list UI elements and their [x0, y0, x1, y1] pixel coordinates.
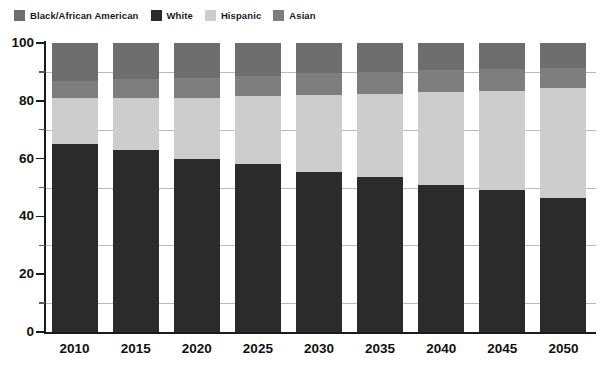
- chart-legend: Black/African American White Hispanic As…: [14, 6, 328, 24]
- y-axis-label-100: 100: [0, 36, 34, 50]
- bar-segment-white-2025: [235, 164, 281, 332]
- bar-segment-white-2030: [296, 172, 342, 332]
- y-axis-label-80: 80: [0, 94, 34, 108]
- bar-segment-asian-2040: [418, 70, 464, 92]
- stacked-bar-chart: Black/African American White Hispanic As…: [0, 0, 610, 379]
- x-axis-label-2025: 2025: [227, 342, 288, 356]
- x-axis-label-2015: 2015: [105, 342, 166, 356]
- bar-segment-hispanic-2035: [357, 94, 403, 178]
- bar-segment-white-2045: [479, 190, 525, 332]
- bar-group-2025: [235, 43, 281, 332]
- legend-label-white: White: [167, 10, 193, 21]
- bar-segment-asian-2045: [479, 69, 525, 91]
- bar-segment-hispanic-2015: [113, 98, 159, 150]
- bar-segment-hispanic-2030: [296, 95, 342, 172]
- bar-segment-black-african-american-2030: [296, 43, 342, 73]
- bar-segment-hispanic-2025: [235, 96, 281, 164]
- y-axis-label-0: 0: [0, 325, 34, 339]
- x-axis-label-2030: 2030: [288, 342, 349, 356]
- bar-group-2035: [357, 43, 403, 332]
- bar-segment-black-african-american-2010: [52, 43, 98, 81]
- bar-group-2020: [174, 43, 220, 332]
- x-axis-line: [44, 332, 596, 334]
- bar-segment-black-african-american-2045: [479, 43, 525, 69]
- legend-swatch-asian: [273, 10, 284, 21]
- bar-group-2050: [540, 43, 586, 332]
- bar-segment-hispanic-2045: [479, 91, 525, 191]
- bar-segment-asian-2015: [113, 79, 159, 98]
- bar-segment-black-african-american-2025: [235, 43, 281, 76]
- y-axis-label-20: 20: [0, 267, 34, 281]
- bar-segment-hispanic-2020: [174, 98, 220, 159]
- bar-segment-asian-2035: [357, 72, 403, 94]
- legend-item-asian: Asian: [273, 10, 315, 21]
- bar-segment-hispanic-2040: [418, 92, 464, 184]
- x-axis-label-2020: 2020: [166, 342, 227, 356]
- y-axis-labels: 020406080100: [0, 0, 34, 379]
- bar-segment-white-2035: [357, 177, 403, 332]
- x-axis-label-2045: 2045: [472, 342, 533, 356]
- legend-label-asian: Asian: [289, 10, 315, 21]
- bar-group-2010: [52, 43, 98, 332]
- bar-segment-asian-2050: [540, 68, 586, 88]
- bar-segment-white-2020: [174, 159, 220, 332]
- bar-group-2030: [296, 43, 342, 332]
- bar-segment-black-african-american-2035: [357, 43, 403, 72]
- x-axis-label-2010: 2010: [44, 342, 105, 356]
- legend-item-white: White: [151, 10, 193, 21]
- chart-plot-area: [44, 43, 594, 332]
- x-axis-label-2050: 2050: [533, 342, 594, 356]
- bar-group-2040: [418, 43, 464, 332]
- legend-swatch-white: [151, 10, 162, 21]
- bar-segment-asian-2020: [174, 78, 220, 98]
- legend-swatch-hispanic: [205, 10, 216, 21]
- bar-segment-black-african-american-2015: [113, 43, 159, 79]
- bar-segment-hispanic-2050: [540, 88, 586, 198]
- bar-segment-black-african-american-2040: [418, 43, 464, 70]
- bar-group-2015: [113, 43, 159, 332]
- x-axis-label-2035: 2035: [350, 342, 411, 356]
- legend-label-hispanic: Hispanic: [221, 10, 261, 21]
- bar-segment-hispanic-2010: [52, 98, 98, 144]
- bar-segment-white-2010: [52, 144, 98, 332]
- legend-label-black-african-american: Black/African American: [30, 10, 139, 21]
- bar-segment-asian-2010: [52, 81, 98, 98]
- y-axis-label-40: 40: [0, 209, 34, 223]
- legend-item-hispanic: Hispanic: [205, 10, 261, 21]
- bar-segment-white-2015: [113, 150, 159, 332]
- bar-segment-black-african-american-2050: [540, 43, 586, 68]
- bar-segment-white-2050: [540, 198, 586, 332]
- bar-segment-white-2040: [418, 185, 464, 332]
- bar-segment-asian-2030: [296, 73, 342, 95]
- x-axis-label-2040: 2040: [411, 342, 472, 356]
- bar-segment-asian-2025: [235, 76, 281, 96]
- bar-group-2045: [479, 43, 525, 332]
- y-axis-label-60: 60: [0, 152, 34, 166]
- bar-segment-black-african-american-2020: [174, 43, 220, 78]
